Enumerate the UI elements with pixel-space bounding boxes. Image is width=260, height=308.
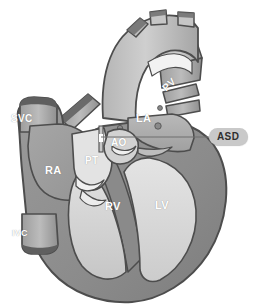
asd-callout-label: ASD [217,132,239,142]
asd-opening [99,134,103,142]
asd-callout-badge: ASD [209,128,248,145]
la-vein-ostium-3 [158,106,163,111]
aortic-root [104,129,138,164]
la-vein-ostium-1 [155,123,161,129]
heart-diagram-figure: SVC IVC RA PT AO LA PV RV LV ASD [0,0,260,308]
great-vessels-group [60,10,202,130]
heart-illustration [0,0,260,308]
branch-cut-end-3 [178,12,194,18]
heart-body-group [18,97,227,302]
